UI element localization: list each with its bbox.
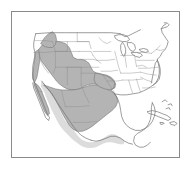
boundary-va-nc <box>138 67 158 68</box>
boundary-ga-fl <box>142 87 155 88</box>
map-canvas <box>12 12 179 157</box>
boundary-ky-tn <box>121 72 141 73</box>
boundary-sd-ne <box>79 51 93 55</box>
boundary-nc-sc <box>140 72 156 75</box>
boundary-ia-mo <box>97 59 115 60</box>
boundary-tn-ms <box>123 79 143 80</box>
jamaica-island <box>160 122 164 124</box>
boundary-al-ga <box>137 79 141 92</box>
boundary-mn-wi <box>99 38 111 44</box>
boundary-il-in <box>115 51 121 73</box>
boundary-wv-va <box>137 65 147 67</box>
boundary-mo-ar <box>101 70 118 71</box>
lake-erie <box>132 52 143 57</box>
boundary-sc-ga <box>140 77 152 82</box>
boundary-ny-ne <box>151 46 160 54</box>
boundary-ms-al <box>129 80 133 93</box>
bahamas-islands <box>162 100 172 110</box>
lake-huron <box>128 43 136 52</box>
distribution-map-figure: North America <box>0 0 192 172</box>
boundary-oh-pa <box>135 55 137 66</box>
boundary-mt-nd <box>77 33 89 42</box>
map-frame <box>11 11 180 158</box>
hispaniola-island <box>170 121 177 125</box>
lake-ontario <box>139 48 148 52</box>
boundary-ne-states <box>156 49 164 50</box>
atlantic-coastline <box>157 24 168 60</box>
range-core-northern-lobe <box>41 32 57 48</box>
boundary-nd-sd <box>77 42 91 49</box>
boundary-ne-ia <box>93 55 101 63</box>
range-core-california-arm <box>33 49 40 82</box>
northeast-coastline-detail <box>161 23 169 29</box>
